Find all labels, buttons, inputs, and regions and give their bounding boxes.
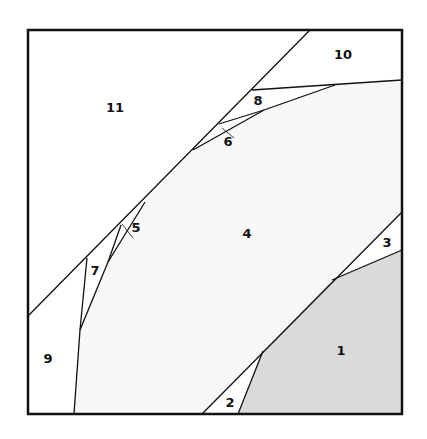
- region-label-6: 6: [223, 134, 232, 149]
- region-label-11: 11: [106, 100, 124, 115]
- region-label-2: 2: [225, 395, 234, 410]
- region-label-5: 5: [131, 220, 140, 235]
- partition-diagram: 1 2 3 4 5 6 7 8 9 10 11: [0, 0, 427, 439]
- region-label-1: 1: [336, 343, 345, 358]
- region-label-10: 10: [334, 47, 352, 62]
- region-label-9: 9: [43, 351, 52, 366]
- region-label-7: 7: [90, 263, 99, 278]
- region-label-4: 4: [242, 226, 251, 241]
- region-label-8: 8: [253, 93, 262, 108]
- region-label-3: 3: [382, 235, 391, 250]
